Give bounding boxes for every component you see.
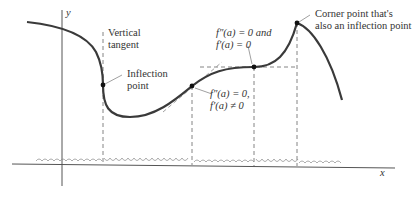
concavity-marks <box>36 158 341 163</box>
vertical-tangent-label-line1: Vertical <box>108 27 141 38</box>
f2-zero-f1-nonzero-line1: f″(a) = 0, <box>210 88 250 100</box>
vertical-tangent-label-line2: tangent <box>108 39 139 50</box>
inflection-point-2 <box>190 84 195 89</box>
f2-zero-f1-nonzero-line2: f′(a) ≠ 0 <box>210 100 244 112</box>
x-axis-label: x <box>379 167 385 178</box>
x-axis <box>12 164 395 168</box>
inflection-diagram: y x Vertical tangent <box>0 0 418 197</box>
corner-point <box>295 21 300 26</box>
inflection-point-3 <box>252 65 257 70</box>
inflection-point-label-line2: point <box>127 80 149 91</box>
inflection-point-1 <box>101 83 106 88</box>
y-axis-label: y <box>65 7 71 18</box>
function-curve <box>27 22 342 117</box>
f2-zero-f1-zero-line1: f″(a) = 0 and <box>216 27 272 39</box>
corner-point-label-line1: Corner point that's <box>315 8 393 19</box>
inflection-point-label-line1: Inflection <box>127 68 169 79</box>
corner-point-label-line2: also an inflection point <box>315 20 412 31</box>
f2-zero-f1-zero-line2: f′(a) = 0 <box>216 39 252 51</box>
